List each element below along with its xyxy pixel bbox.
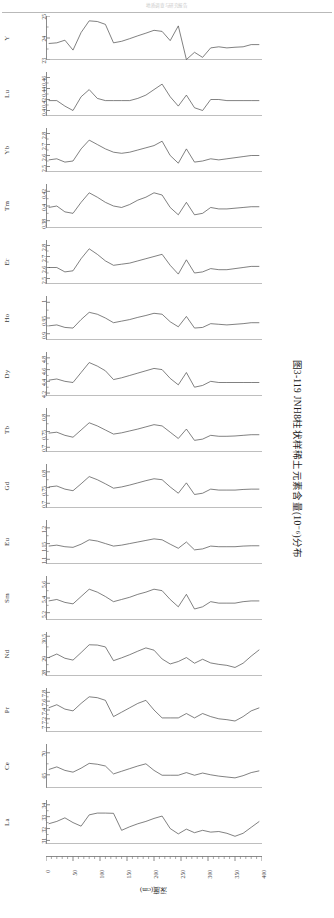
panel-sm: Sm5.25.45.6 <box>0 576 262 620</box>
data-series-eu <box>49 539 260 550</box>
panel-label-text: Ce <box>3 762 11 770</box>
data-series-la <box>49 813 260 836</box>
data-series-pr <box>49 697 260 721</box>
plot-area-eu <box>46 520 262 564</box>
panel-nd: Nd282930.5 <box>0 632 262 676</box>
panel-tb: Tb0.70.750.8 <box>0 408 262 452</box>
plot-area-ho <box>46 296 262 340</box>
figure-caption: 图3-119 JNH8柱状样稀土元素含量(10⁻⁶)分布 <box>262 0 334 918</box>
x-axis-label: 深度(cm) <box>46 880 262 906</box>
panel-label-sm: Sm <box>0 576 14 620</box>
panel-label-ce: Ce <box>0 744 14 788</box>
panel-label-text: Yb <box>3 146 11 155</box>
panel-label-tm: Tm <box>0 184 14 228</box>
panel-label-text: Sm <box>3 593 11 603</box>
panel-ce: Ce6570 <box>0 744 262 788</box>
panel-pr: Pr77.27.47.67.8 <box>0 688 262 732</box>
panel-label-text: Pr <box>3 707 11 714</box>
panel-lu: Lu0.40.420.440.46 <box>0 72 262 116</box>
data-series-yb <box>49 140 260 163</box>
panel-label-text: Ho <box>3 314 11 323</box>
panel-label-text: Y <box>3 35 11 40</box>
x-tick-label-text: 300 <box>207 870 213 878</box>
panel-label-text: Nd <box>3 650 11 659</box>
panel-label-text: Lu <box>3 90 11 98</box>
x-tick-label-text: 100 <box>99 870 105 878</box>
plot-area-ce <box>46 744 262 788</box>
plot-area-pr <box>46 688 262 732</box>
figure-caption-text: 图3-119 JNH8柱状样稀土元素含量(10⁻⁶)分布 <box>291 360 305 559</box>
panel-label-yb: Yb <box>0 128 14 172</box>
panel-label-text: Dy <box>3 370 11 379</box>
plot-area-yb <box>46 128 262 172</box>
panel-label-text: Eu <box>3 538 11 546</box>
panel-label-text: Gd <box>3 482 11 491</box>
data-series-nd <box>49 645 260 668</box>
panel-label-er: Er <box>0 240 14 284</box>
panel-label-nd: Nd <box>0 632 14 676</box>
data-series-lu <box>49 84 260 110</box>
plot-area-dy <box>46 352 262 396</box>
plot-area-la <box>46 800 262 844</box>
panel-label-gd: Gd <box>0 464 14 508</box>
plot-area-nd <box>46 632 262 676</box>
panel-label-text: La <box>3 818 11 826</box>
panel-yb: Yb2.52.62.72.8 <box>0 128 262 172</box>
data-series-er <box>49 249 260 274</box>
panel-label-text: Tb <box>3 426 11 434</box>
panel-stack: Y232425Lu0.40.420.440.46Yb2.52.62.72.8Tm… <box>0 16 262 856</box>
plot-area-sm <box>46 576 262 620</box>
data-series-tm <box>49 193 260 215</box>
plot-area-lu <box>46 72 262 116</box>
x-tick-label-text: 200 <box>153 870 159 878</box>
plot-area-y <box>46 16 262 60</box>
data-series-y <box>49 21 260 60</box>
panel-ho: Ho0.90.951 <box>0 296 262 340</box>
x-tick-label-text: 250 <box>180 870 186 878</box>
panel-label-lu: Lu <box>0 72 14 116</box>
panel-eu: Eu1.11.151.2 <box>0 520 262 564</box>
panel-label-ho: Ho <box>0 296 14 340</box>
x-tick-label-text: 50 <box>72 870 78 876</box>
panel-label-text: Tm <box>3 201 11 211</box>
x-tick-label-text: 350 <box>234 870 240 878</box>
plot-area-tm <box>46 184 262 228</box>
panel-la: La31323334 <box>0 800 262 844</box>
panel-label-tb: Tb <box>0 408 14 452</box>
panel-gd: Gd0.70.750.8 <box>0 464 262 508</box>
plot-area-tb <box>46 408 262 452</box>
data-series-ho <box>49 312 260 328</box>
x-axis-label-text: 深度(cm) <box>140 886 167 896</box>
data-series-ce <box>49 763 260 778</box>
panel-label-pr: Pr <box>0 688 14 732</box>
panel-label-dy: Dy <box>0 352 14 396</box>
x-tick-label-text: 0 <box>45 870 51 873</box>
panel-er: Er2.52.62.72.8 <box>0 240 262 284</box>
x-tick-label-text: 150 <box>126 870 132 878</box>
figure-container: 地质调查与研究报告 Y232425Lu0.40.420.440.46Yb2.52… <box>0 0 334 918</box>
data-series-sm <box>49 589 260 609</box>
data-series-dy <box>49 363 260 388</box>
x-axis-svg <box>46 856 262 864</box>
panel-label-text: Er <box>3 258 11 265</box>
panel-label-eu: Eu <box>0 520 14 564</box>
panel-y: Y232425 <box>0 16 262 60</box>
data-series-gd <box>49 477 260 495</box>
panel-dy: Dy4.24.44.64.8 <box>0 352 262 396</box>
data-series-tb <box>49 423 260 441</box>
panel-tm: Tm0.380.40.42 <box>0 184 262 228</box>
plot-area-er <box>46 240 262 284</box>
panel-label-la: La <box>0 800 14 844</box>
plot-area-gd <box>46 464 262 508</box>
panel-label-y: Y <box>0 16 14 60</box>
